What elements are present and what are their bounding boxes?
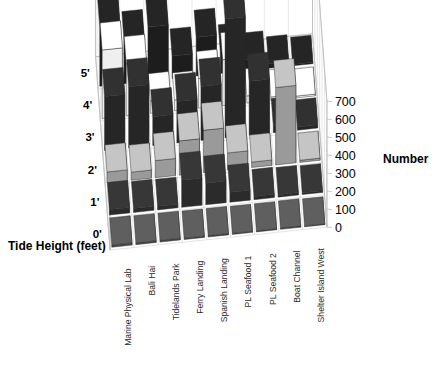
value-tick-label: 700: [335, 95, 356, 109]
bar-3d: [107, 180, 129, 215]
bar-3d: [225, 124, 247, 170]
value-axis-title: Number: [383, 152, 429, 166]
bar-front-face: [105, 94, 125, 150]
bar-front-face: [182, 178, 202, 207]
bar-3d: [223, 0, 245, 138]
bar-front-face: [276, 85, 296, 165]
bar-top-face: [153, 131, 175, 160]
bar-top-face: [295, 98, 317, 127]
bar-top-face: [293, 67, 315, 96]
value-tick-mark: [327, 101, 332, 102]
depth-axis-title-text: Tide Height (feet): [8, 239, 106, 253]
bar-top-face: [122, 9, 144, 38]
value-tick-mark: [327, 191, 332, 192]
value-tick-label: 200: [335, 185, 356, 199]
value-tick-mark: [327, 173, 332, 174]
value-tick-label: 300: [335, 167, 356, 181]
bar-top-face: [250, 133, 272, 162]
chart-container: Number by Site 0100200300400500600700 Nu…: [0, 0, 445, 379]
bar-top-face: [182, 209, 204, 238]
depth-tick-label: 3': [85, 131, 94, 143]
bar-3d: [156, 177, 178, 210]
bar-3d: [129, 143, 151, 180]
bar-top-face: [206, 206, 228, 235]
bar-front-face: [155, 158, 175, 177]
bar-3d: [250, 133, 272, 168]
value-tick-mark: [327, 227, 332, 228]
category-label: Tidelands Park: [171, 263, 181, 321]
bar-top-face: [110, 216, 132, 245]
bar-3d: [158, 211, 180, 242]
bar-3d: [127, 58, 149, 148]
bar-top-face: [131, 179, 153, 208]
bar-3d: [298, 131, 320, 162]
bar-top-face: [247, 52, 269, 81]
bar-3d: [247, 52, 269, 135]
depth-tick-label: 1': [90, 196, 99, 208]
category-label: Spanish Landing: [219, 258, 229, 322]
depth-tick-label: 5': [81, 67, 90, 79]
bar-top-face: [156, 177, 178, 206]
bar-top-face: [199, 57, 221, 86]
bar-top-face: [252, 167, 274, 196]
value-axis-ticks: 0100200300400500600700: [327, 95, 356, 235]
bar-top-face: [127, 58, 149, 87]
bar-3d: [182, 209, 204, 240]
bar-top-face: [201, 101, 223, 130]
depth-axis-title: Tide Height (feet): [8, 239, 106, 253]
bar-top-face: [103, 67, 125, 96]
bar-3d: [180, 151, 202, 207]
bar-3d: [170, 27, 192, 79]
bar-top-face: [225, 124, 247, 153]
bar-top-face: [276, 165, 298, 194]
bar-3d: [204, 154, 226, 205]
bar-top-face: [134, 214, 156, 243]
bar-top-face: [204, 154, 226, 183]
value-axis-title-text: Number: [383, 152, 429, 166]
bar-top-face: [194, 8, 216, 37]
value-tick-label: 100: [335, 203, 356, 217]
bar-3d: [230, 204, 252, 234]
bar-3d: [300, 164, 322, 195]
bar-3d: [295, 98, 317, 130]
bar-3d: [252, 167, 274, 199]
bar-3d: [206, 206, 228, 237]
bar-top-face: [230, 204, 252, 233]
bar-top-face: [180, 151, 202, 180]
bar-3d: [228, 163, 250, 202]
bar-front-face: [225, 17, 245, 138]
bar-top-face: [254, 202, 276, 231]
bar-3d: [278, 199, 300, 230]
depth-tick-label: 4': [83, 99, 92, 111]
category-label: Boat Channel: [292, 250, 302, 302]
category-axis-labels: Marine Physical LabBali HaiTidelands Par…: [123, 247, 326, 345]
bar-3d: [110, 216, 132, 247]
bar-top-face: [100, 21, 122, 50]
bar-3d: [274, 58, 296, 165]
value-tick-mark: [327, 119, 332, 120]
bar-top-face: [146, 0, 168, 27]
bar-front-face: [206, 181, 226, 205]
category-label: Ferry Landing: [195, 261, 205, 314]
bar-3d: [131, 179, 153, 212]
bar-top-face: [300, 164, 322, 193]
bars-group: [98, 0, 325, 247]
bar-top-face: [228, 163, 250, 192]
category-label: Bali Hai: [147, 266, 157, 296]
bar-top-face: [151, 88, 173, 117]
bar-3d: [276, 165, 298, 197]
bar-3d: [153, 131, 175, 177]
bar-top-face: [274, 58, 296, 87]
bar-3d: [105, 143, 127, 183]
bar-top-face: [177, 112, 199, 141]
bar-top-face: [158, 211, 180, 240]
bar-top-face: [278, 199, 300, 228]
value-tick-label: 400: [335, 149, 356, 163]
category-label: PL Seafood 2: [268, 253, 278, 305]
bar-top-face: [303, 197, 325, 226]
bar-3d: [146, 0, 168, 81]
bar-top-face: [175, 72, 197, 101]
category-label: PL Seafood 1: [243, 255, 253, 307]
bar-top-face: [129, 143, 151, 172]
value-tick-mark: [327, 209, 332, 210]
